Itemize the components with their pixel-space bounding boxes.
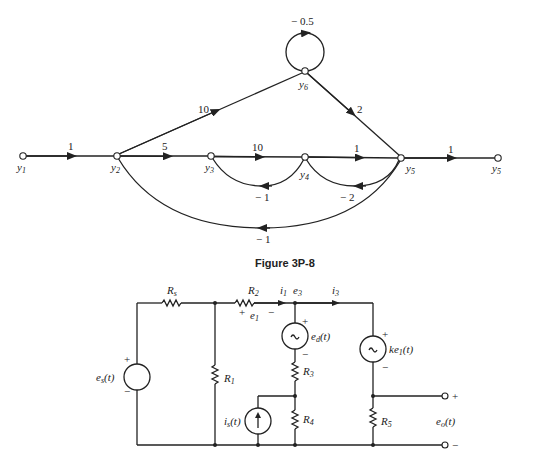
es-minus: − (124, 385, 130, 397)
gain-y2-y3: 5 (162, 140, 168, 152)
eo-minus: − (452, 439, 458, 450)
branch-y3-y4: 10 (214, 141, 302, 157)
label-i1: i1 (280, 284, 287, 298)
resistor-r3 (292, 362, 298, 381)
label-r2: R2 (247, 284, 259, 298)
label-ed: ed(t) (311, 330, 331, 344)
output-terminal-negative (442, 442, 448, 448)
branch-y2-y6: 10 (119, 73, 302, 154)
svg-text:y1: y1 (16, 161, 26, 175)
label-e1-minus: − (268, 306, 274, 318)
branch-y6-self-loop: − 0.5 (286, 15, 324, 71)
resistor-rs (162, 300, 181, 306)
ke1-plus: + (382, 328, 388, 340)
gain-y3-y4: 10 (252, 141, 264, 153)
label-r3: R3 (302, 365, 314, 379)
gain-y6-self: − 0.5 (291, 15, 314, 27)
label-e1-plus: + (239, 306, 245, 318)
gain-y2-y6: 10 (198, 103, 210, 115)
gain-y4-y3: − 1 (255, 191, 269, 203)
label-i3: i3 (332, 284, 339, 298)
es-plus: + (124, 353, 130, 365)
svg-text:y3: y3 (204, 161, 214, 175)
gain-y5-y2: − 1 (256, 233, 270, 245)
diagram-canvas: 1 5 10 1 1 10 (0, 0, 544, 450)
label-ke1: ke1(t) (389, 343, 413, 357)
resistor-r5 (370, 408, 376, 427)
gain-y1-y2: 1 (68, 140, 74, 152)
resistor-r4 (292, 410, 298, 429)
svg-text:y5: y5 (491, 162, 501, 176)
svg-text:y6: y6 (298, 78, 308, 92)
branch-y4-y3: − 1 (213, 159, 304, 203)
label-r1: R1 (223, 372, 235, 386)
label-e1: e1 (250, 309, 259, 323)
circuit-schematic: Rs R2 i1 e3 i3 + e1 − + − es(t) R1 + − e… (96, 284, 458, 450)
label-eo: eo(t) (436, 415, 456, 429)
svg-text:y2: y2 (110, 161, 120, 175)
svg-text:y5: y5 (405, 162, 415, 176)
gain-y4-y5: 1 (354, 142, 360, 154)
node-y4: y4 (299, 154, 309, 182)
label-e3: e3 (293, 284, 302, 298)
figure-caption: Figure 3P-8 (255, 257, 315, 269)
label-es: es(t) (96, 371, 115, 385)
ed-plus: + (302, 315, 308, 327)
eo-plus: + (452, 390, 458, 402)
node-y6: y6 (298, 68, 308, 92)
gain-y5-out: 1 (448, 143, 454, 155)
label-r4: R4 (302, 413, 314, 427)
label-rs: Rs (166, 284, 177, 298)
label-r5: R5 (380, 415, 392, 429)
resistor-r1 (212, 365, 218, 384)
gain-y6-y5: 2 (357, 103, 363, 115)
branch-y1-y2: 1 (26, 140, 114, 156)
gain-y5-y4: − 2 (340, 191, 354, 203)
branch-y4-y5: 1 (308, 142, 398, 158)
output-terminal-positive (442, 393, 448, 399)
branch-y5-out: 1 (404, 143, 495, 158)
svg-text:y4: y4 (299, 168, 309, 182)
ke1-minus: − (382, 361, 388, 373)
signal-flow-graph: 1 5 10 1 1 10 (16, 15, 501, 245)
label-is: is(t) (224, 415, 241, 429)
ed-minus: − (302, 348, 308, 360)
node-y1: y1 (16, 153, 26, 175)
